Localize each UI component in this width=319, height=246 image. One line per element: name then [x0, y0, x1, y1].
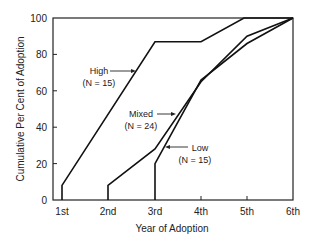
x-tick-5th: 5th	[240, 206, 254, 217]
annotation-mixed: Mixed (N = 24)	[125, 109, 176, 131]
svg-text:(N = 24): (N = 24)	[125, 121, 158, 131]
annotation-low: Low (N = 15)	[165, 143, 211, 165]
plot-frame	[53, 18, 293, 200]
y-tick-100: 100	[30, 13, 47, 24]
svg-text:Low: Low	[192, 143, 209, 153]
y-tick-80: 80	[36, 49, 48, 60]
series-high-line	[62, 18, 293, 200]
x-tick-1st: 1st	[55, 206, 69, 217]
series-low-line	[155, 18, 293, 200]
svg-text:Mixed: Mixed	[129, 109, 153, 119]
x-tick-2nd: 2nd	[100, 206, 117, 217]
y-tick-40: 40	[36, 122, 48, 133]
x-tick-4th: 4th	[194, 206, 208, 217]
y-axis-label: Cumulative Per Cent of Adoption	[15, 36, 26, 181]
svg-text:(N = 15): (N = 15)	[83, 78, 116, 88]
x-tick-3rd: 3rd	[148, 206, 162, 217]
y-tick-60: 60	[36, 86, 48, 97]
x-axis-label: Year of Adoption	[135, 223, 208, 234]
adoption-chart: 0 20 40 60 80 100 Cumulative Per Cent of…	[0, 0, 319, 246]
y-tick-20: 20	[36, 159, 48, 170]
svg-text:High: High	[90, 66, 109, 76]
svg-text:(N = 15): (N = 15)	[179, 155, 212, 165]
x-tick-6th: 6th	[286, 206, 300, 217]
x-axis: 1st 2nd 3rd 4th 5th 6th Year of Adoption	[55, 196, 300, 234]
y-axis: 0 20 40 60 80 100 Cumulative Per Cent of…	[15, 13, 57, 206]
y-tick-0: 0	[41, 195, 47, 206]
